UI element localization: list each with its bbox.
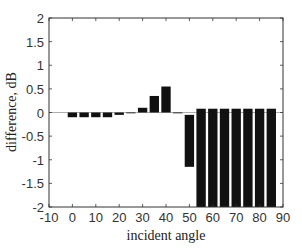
y-axis-title: difference, dB: [4, 72, 19, 152]
bar: [115, 113, 124, 115]
y-tick-label: -1.5: [22, 176, 44, 191]
x-axis-title: incident angle: [127, 228, 206, 243]
y-tick-label: -2: [32, 200, 44, 215]
bar: [103, 113, 112, 118]
bar: [185, 115, 194, 167]
bar-series: [68, 87, 276, 207]
bar: [161, 87, 170, 113]
x-tick-label: 70: [229, 210, 243, 225]
bar: [126, 113, 135, 114]
y-tick-label: -1: [32, 153, 44, 168]
x-tick-label: 90: [276, 210, 290, 225]
bar: [138, 108, 147, 113]
bar: [243, 109, 252, 207]
x-tick-label: 60: [206, 210, 220, 225]
bar: [150, 96, 159, 113]
x-tick-label: 0: [69, 210, 76, 225]
bar: [208, 109, 217, 207]
bar: [173, 113, 182, 114]
bar: [79, 113, 88, 118]
x-tick-label: 80: [252, 210, 266, 225]
y-tick-label: 0: [37, 106, 44, 121]
bar: [267, 109, 276, 207]
x-tick-label: 50: [182, 210, 196, 225]
y-tick-label: 0.5: [26, 82, 44, 97]
y-tick-label: 2: [37, 11, 44, 26]
y-tick-label: 1: [37, 58, 44, 73]
x-tick-label: 10: [89, 210, 103, 225]
bar-chart: -100102030405060708090 21.510.50-0.5-1-1…: [0, 0, 302, 248]
x-tick-label: 30: [135, 210, 149, 225]
bar: [232, 109, 241, 207]
bar: [196, 109, 205, 207]
bar: [255, 109, 264, 207]
bar: [220, 109, 229, 207]
x-tick-label: 40: [159, 210, 173, 225]
x-tick-label: 20: [112, 210, 126, 225]
bar: [91, 113, 100, 118]
y-tick-label: -0.5: [22, 129, 44, 144]
x-axis-ticks: -100102030405060708090: [40, 18, 291, 225]
bar: [68, 113, 77, 118]
y-tick-label: 1.5: [26, 35, 44, 50]
